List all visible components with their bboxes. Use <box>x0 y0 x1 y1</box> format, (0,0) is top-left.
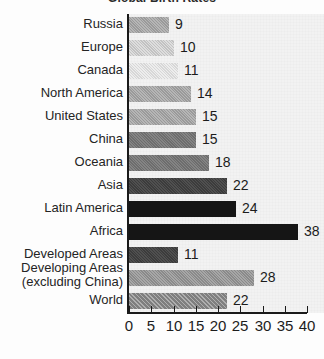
category-label: Latin America <box>0 200 123 215</box>
x-axis-tick <box>129 306 130 313</box>
bar-value-label: 28 <box>260 269 276 285</box>
bar-value-label: 22 <box>233 177 249 193</box>
category-label: Developing Areas (excluding China) <box>0 261 123 289</box>
bar-value-label: 9 <box>175 16 183 32</box>
bar-row: Canada11 <box>0 60 324 83</box>
bar-value-label: 10 <box>180 39 196 55</box>
x-axis-tick <box>307 306 308 313</box>
x-axis-tick <box>263 306 264 313</box>
x-axis-tick-label: 40 <box>295 317 319 334</box>
category-label: Africa <box>0 223 123 238</box>
x-axis-tick <box>240 306 241 313</box>
category-label: China <box>0 131 123 146</box>
bar-row: China15 <box>0 129 324 152</box>
bar-value-label: 14 <box>197 85 213 101</box>
bar <box>129 155 209 171</box>
category-label: North America <box>0 85 123 100</box>
x-axis-tick-label: 35 <box>273 317 297 334</box>
bar-row: Russia9 <box>0 14 324 37</box>
bar <box>129 132 196 148</box>
bar-value-label: 15 <box>202 131 218 147</box>
bar-chart: Global Birth Rates Russia9Europe10Canada… <box>0 0 324 359</box>
x-axis-tick-label: 5 <box>139 317 163 334</box>
x-axis-tick-label: 15 <box>184 317 208 334</box>
bar-value-label: 11 <box>184 62 199 78</box>
bar <box>129 40 174 56</box>
bar-row: Europe10 <box>0 37 324 60</box>
bar-row: Africa38 <box>0 221 324 244</box>
x-axis-tick <box>285 306 286 313</box>
x-axis-tick-label: 0 <box>117 317 141 334</box>
x-axis-tick <box>218 306 219 313</box>
category-label: World <box>0 292 123 307</box>
bar-row: Developing Areas (excluding China)28 <box>0 267 324 290</box>
category-label: Russia <box>0 16 123 31</box>
bar <box>129 178 227 194</box>
x-axis-tick-label: 10 <box>162 317 186 334</box>
x-axis-tick-label: 20 <box>206 317 230 334</box>
x-axis-tick-label: 30 <box>251 317 275 334</box>
category-label: Europe <box>0 39 123 54</box>
x-axis-tick <box>174 306 175 313</box>
bar-value-label: 24 <box>242 200 258 216</box>
chart-title: Global Birth Rates <box>0 0 324 5</box>
bar <box>129 270 254 286</box>
category-label: Oceania <box>0 154 123 169</box>
x-axis-tick <box>151 306 152 313</box>
category-label: Developed Areas <box>0 246 123 261</box>
bar-row: World22 <box>0 290 324 313</box>
bar-row-list: Russia9Europe10Canada11North America14Un… <box>0 14 324 313</box>
category-label: United States <box>0 108 123 123</box>
bar <box>129 293 227 309</box>
bar-row: Latin America24 <box>0 198 324 221</box>
bar-row: United States15 <box>0 106 324 129</box>
category-label: Canada <box>0 62 123 77</box>
category-label: Asia <box>0 177 123 192</box>
bar-row: North America14 <box>0 83 324 106</box>
bar <box>129 63 178 79</box>
bar <box>129 224 298 240</box>
bar-row: Asia22 <box>0 175 324 198</box>
bar-value-label: 11 <box>184 246 199 262</box>
x-axis-tick-label: 25 <box>228 317 252 334</box>
bar <box>129 109 196 125</box>
bar <box>129 17 169 33</box>
bar <box>129 86 191 102</box>
x-axis-tick <box>196 306 197 313</box>
bar-value-label: 18 <box>215 154 231 170</box>
bar <box>129 201 236 217</box>
bar-value-label: 15 <box>202 108 218 124</box>
bar <box>129 247 178 263</box>
bar-value-label: 38 <box>304 223 320 239</box>
bar-row: Oceania18 <box>0 152 324 175</box>
